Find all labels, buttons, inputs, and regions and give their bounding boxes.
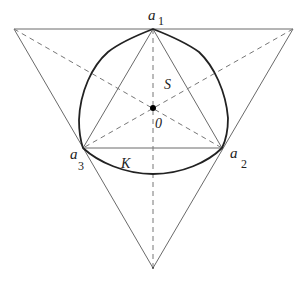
label-s: S <box>164 77 171 92</box>
label-a3: a <box>70 146 78 162</box>
vertex-bottom-dot <box>152 267 154 269</box>
label-a1: a <box>148 7 156 23</box>
label-a1-sub: 1 <box>158 14 164 28</box>
diagram-figure: a 1 S 0 a 3 K a 2 <box>0 0 306 287</box>
center-point-o <box>150 105 156 111</box>
label-k: K <box>120 156 131 171</box>
label-a3-sub: 3 <box>78 159 84 173</box>
dashed-medians <box>14 29 293 268</box>
label-a2: a <box>230 145 238 161</box>
label-o: 0 <box>155 116 162 131</box>
label-a2-sub: 2 <box>241 157 247 171</box>
